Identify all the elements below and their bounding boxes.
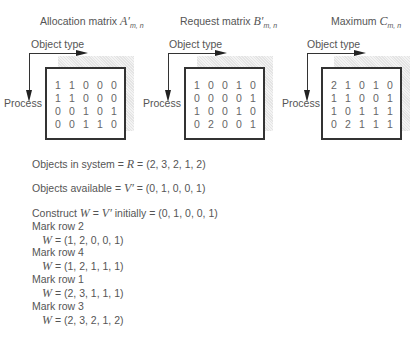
w-value-line: W = (2, 3, 1, 1, 1) [42, 286, 124, 301]
objects-available-line: Objects available = V′ = (0, 1, 0, 0, 1) [32, 181, 205, 196]
process-label: Process [143, 97, 181, 109]
cell: 1 [236, 105, 250, 118]
object-type-label: Object type [307, 38, 360, 50]
object-type-axis [168, 53, 218, 54]
cell: 0 [194, 92, 208, 105]
cell: 1 [387, 118, 401, 131]
cell: 0 [250, 79, 264, 92]
cell: 0 [359, 79, 373, 92]
cell: 1 [359, 118, 373, 131]
cell: 0 [236, 118, 250, 131]
cell: 1 [331, 92, 345, 105]
symbol-w: W [80, 206, 90, 220]
line-value: = (2, 3, 2, 1, 2) [134, 158, 206, 170]
cell: 0 [345, 105, 359, 118]
title-text: Request matrix [180, 15, 254, 27]
cell: 1 [331, 105, 345, 118]
cell: 1 [373, 105, 387, 118]
mark-row-line: Mark row 4 [32, 246, 84, 258]
maximum-matrix-title: Maximum Cm, n [331, 14, 401, 29]
cell: 0 [222, 79, 236, 92]
cell: 2 [331, 79, 345, 92]
cell: 1 [345, 92, 359, 105]
cell: 0 [208, 79, 222, 92]
line-value: initially = (0, 1, 0, 0, 1) [112, 207, 218, 219]
request-matrix-title: Request matrix B′m, n [180, 14, 277, 29]
line-value: = (1, 2, 0, 0, 1) [52, 234, 124, 246]
maximum-matrix-grid: 21010 11001 10111 02111 [331, 79, 401, 131]
cell: 0 [222, 118, 236, 131]
line-value: = (0, 1, 0, 0, 1) [134, 182, 206, 194]
cell: 1 [250, 118, 264, 131]
process-axis [168, 53, 169, 93]
cell: 1 [387, 92, 401, 105]
cell: 0 [236, 92, 250, 105]
cell: 1 [345, 79, 359, 92]
line-text: Construct [32, 207, 80, 219]
symbol-w: W [42, 313, 52, 327]
symbol-v: V′ [102, 206, 112, 220]
cell: 0 [359, 92, 373, 105]
cell: 1 [387, 105, 401, 118]
maximum-matrix-box: 21010 11001 10111 02111 [321, 67, 402, 140]
symbol-w: W [42, 286, 52, 300]
object-type-axis [307, 53, 357, 54]
cell: 0 [194, 118, 208, 131]
cell: 0 [208, 92, 222, 105]
objects-in-system-line: Objects in system = R = (2, 3, 2, 1, 2) [32, 157, 206, 172]
cell: 1 [373, 79, 387, 92]
title-text: Maximum [331, 15, 379, 27]
construct-line: Construct W = V′ initially = (0, 1, 0, 0… [32, 206, 218, 221]
cell: 0 [208, 105, 222, 118]
object-type-label: Object type [169, 38, 222, 50]
line-value: = (1, 2, 1, 1, 1) [52, 260, 124, 272]
cell: 0 [373, 92, 387, 105]
cell: 1 [194, 105, 208, 118]
cell: 2 [208, 118, 222, 131]
request-matrix-grid: 10010 00001 10010 02001 [194, 79, 264, 131]
symbol-v: V′ [124, 181, 134, 195]
cell: 1 [194, 79, 208, 92]
mark-row-line: Mark row 1 [32, 273, 84, 285]
cell: 0 [222, 105, 236, 118]
w-value-line: W = (1, 2, 1, 1, 1) [42, 259, 124, 274]
title-subscript: m, n [387, 22, 401, 29]
request-matrix-box: 10010 00001 10010 02001 [184, 67, 265, 140]
cell: 1 [250, 92, 264, 105]
mark-row-line: Mark row 3 [32, 300, 84, 312]
cell: 0 [222, 92, 236, 105]
line-value: = (2, 3, 1, 1, 1) [52, 287, 124, 299]
cell: 1 [236, 79, 250, 92]
cell: 0 [250, 105, 264, 118]
cell: 0 [331, 118, 345, 131]
line-text: = [90, 207, 102, 219]
cell: 1 [373, 118, 387, 131]
title-subscript: m, n [264, 22, 278, 29]
mark-row-line: Mark row 2 [32, 220, 84, 232]
cell: 2 [345, 118, 359, 131]
cell: 0 [387, 79, 401, 92]
title-symbol: B′ [254, 14, 264, 28]
line-text: Objects available = [32, 182, 124, 194]
symbol-w: W [42, 259, 52, 273]
line-value: = (2, 3, 2, 1, 2) [52, 314, 124, 326]
w-value-line: W = (2, 3, 2, 1, 2) [42, 313, 124, 328]
process-axis [307, 53, 308, 93]
line-text: Objects in system = [32, 158, 127, 170]
symbol-w: W [42, 233, 52, 247]
maximum-matrix-panel: Maximum Cm, n Object type Process 21010 … [0, 0, 140, 140]
cell: 1 [359, 105, 373, 118]
process-label: Process [282, 97, 320, 109]
